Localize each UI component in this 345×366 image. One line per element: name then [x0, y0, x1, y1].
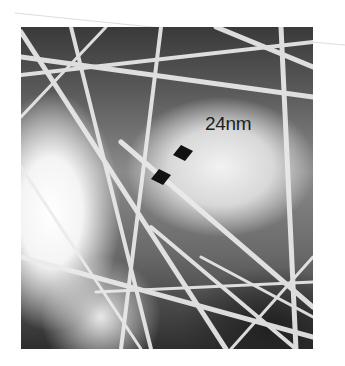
- micrograph-image: 24nm: [21, 27, 313, 349]
- arrow-marker-top: [173, 145, 193, 161]
- scale-label: 24nm: [205, 113, 251, 135]
- fiber-network: [21, 27, 313, 349]
- arrow-markers: [151, 145, 193, 185]
